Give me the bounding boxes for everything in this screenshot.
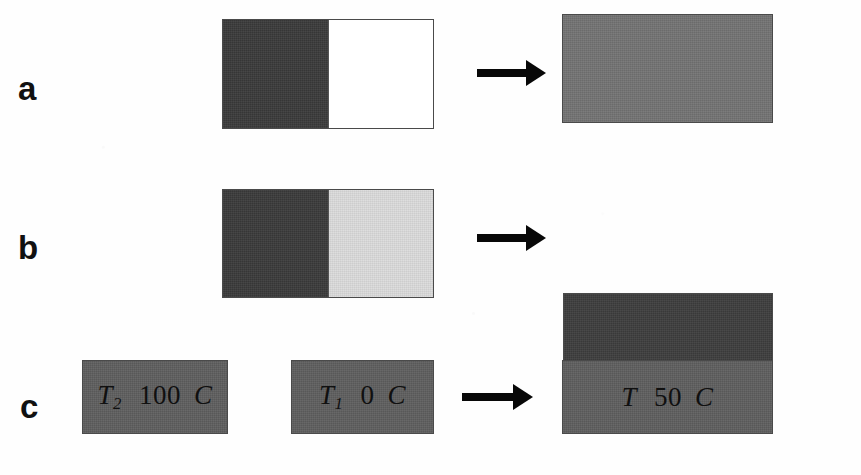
panel-label-a: a [18,72,36,105]
temp-subscript-hot: 2 [113,394,122,413]
figure-canvas: a b c T2100C T10C T50C [0,0,861,475]
temp-unit-equilibrium: C [695,382,714,412]
arrow-b-shaft [477,234,529,242]
temp-value-equilibrium: 50 [654,382,682,412]
temp-symbol-equilibrium: T [621,382,637,412]
temperature-box-equilibrium-text: T50C [621,382,713,413]
arrow-c-head [513,384,533,410]
split-box-a [222,19,434,129]
arrow-a-shaft [477,69,529,77]
arrow-c [462,384,534,410]
arrow-a-head [526,60,546,86]
panel-label-c: c [20,390,38,423]
split-box-b-right-light [328,190,434,297]
split-box-b [222,189,434,298]
temperature-box-cold: T10C [291,360,434,434]
temp-unit-hot: C [194,380,213,410]
temperature-box-hot-text: T2100C [98,380,213,414]
result-box-a [562,14,773,123]
temp-symbol-cold: T [319,380,335,410]
temperature-box-hot: T2100C [82,360,228,434]
temp-symbol-hot: T [98,380,114,410]
temperature-box-equilibrium: T50C [562,360,773,434]
arrow-b-head [526,225,546,251]
temp-value-cold: 0 [360,380,374,410]
temp-value-hot: 100 [139,380,181,410]
split-box-b-left-dark [223,190,328,297]
temperature-box-cold-text: T10C [319,380,406,414]
temp-subscript-cold: 1 [335,394,344,413]
split-box-a-right-white [328,20,434,128]
split-box-a-left-dark [223,20,328,128]
panel-label-b: b [18,231,38,264]
arrow-a [477,60,546,86]
temp-unit-cold: C [387,380,406,410]
arrow-c-shaft [462,393,516,401]
arrow-b [477,225,546,251]
